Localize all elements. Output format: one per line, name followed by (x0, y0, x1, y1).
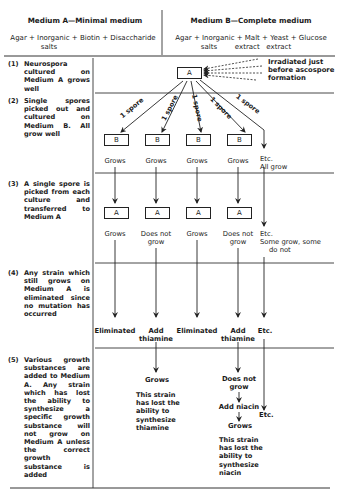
row3-result-line: grow (141, 238, 171, 246)
result-line: grow (222, 383, 256, 391)
row3-etc: Etc. Some grow, some do not (260, 230, 321, 254)
medium-a-box: A (145, 207, 170, 219)
row2-result: Grows (145, 157, 166, 165)
step-text: A single spore is picked from each cultu… (24, 180, 90, 221)
row4-result: Add thiamine (221, 327, 255, 343)
row3-result: Does not grow (223, 230, 253, 246)
row5-add-niacin: Add niacin (219, 403, 259, 411)
medium-a-formula-sub: salts (4, 43, 94, 51)
row2-etc-line: All grow (260, 163, 287, 171)
row3-etc-line: do not (260, 246, 321, 254)
medium-a-box: A (186, 207, 211, 219)
medium-b-box: B (186, 134, 211, 146)
irradiated-note-line: before ascospore (268, 66, 334, 74)
step-number: (2) (8, 97, 19, 105)
irradiated-note: Irradiated just before ascospore formati… (268, 58, 334, 82)
row3-result: Grows (186, 230, 207, 238)
row4-result-line: Add (139, 327, 173, 335)
step-text: Single spores picked out and cultured on… (24, 97, 90, 138)
step-text: Various growth substances are added to M… (24, 356, 90, 479)
row3-result-line: grow (223, 238, 253, 246)
row3-result-line: Does not (141, 230, 171, 238)
description-line: ability to (136, 407, 180, 415)
row4-result-line: thiamine (139, 335, 173, 343)
medium-b-box: B (104, 134, 129, 146)
row3-result-line: Grows (186, 230, 207, 238)
row3-result: Does not grow (141, 230, 171, 246)
medium-b-formula: Agar + Inorganic + Malt + Yeast + Glucos… (164, 34, 338, 42)
row5-thiamine-result: Grows (145, 376, 169, 384)
row4-result-line: Eliminated (95, 327, 136, 335)
step-number: (1) (8, 60, 19, 68)
description-line: This strain (136, 391, 180, 399)
row4-result: Eliminated (95, 327, 136, 335)
row3-etc-line: Etc. (260, 230, 321, 238)
description-line: thiamine (136, 424, 180, 432)
step-4: (4) Any strain which still grows on Medi… (8, 269, 90, 318)
row2-etc: Etc. All grow (260, 155, 287, 171)
medium-a-title: Medium A—Minimal medium (10, 16, 160, 25)
description-line: has lost the (219, 444, 263, 452)
result-line: Does not (222, 375, 256, 383)
row2-result: Grows (186, 157, 207, 165)
medium-a-formula: Agar + Inorganic + Biotin + Disaccharide (4, 34, 162, 42)
step-number: (3) (8, 180, 19, 188)
step-5: (5) Various growth substances are added … (8, 356, 90, 479)
step-3: (3) A single spore is picked from each c… (8, 180, 90, 221)
description-line: niacin (219, 469, 263, 477)
row4-result-line: Eliminated (177, 327, 218, 335)
medium-a-box: A (227, 207, 252, 219)
row3-result-line: Does not (223, 230, 253, 238)
row5-etc: Etc. (259, 411, 274, 419)
description-line: synthesize (136, 416, 180, 424)
description-line: has lost the (136, 399, 180, 407)
top-culture-box: A (177, 67, 202, 79)
step-text: Neurospora cultured on Medium A grows we… (24, 60, 90, 93)
step-number: (4) (8, 269, 19, 277)
row4-etc: Etc. (258, 327, 273, 335)
row5-niacin-description: This strain has lost the ability to synt… (219, 436, 263, 477)
description-line: synthesize (219, 461, 263, 469)
row3-result-line: Grows (104, 230, 125, 238)
row3-result: Grows (104, 230, 125, 238)
medium-b-formula-sub: salts extract extract (196, 43, 296, 51)
row2-result: Grows (227, 157, 248, 165)
step-2: (2) Single spores picked out and culture… (8, 97, 90, 138)
step-text: Any strain which still grows on Medium A… (24, 269, 90, 318)
description-line: This strain (219, 436, 263, 444)
row5-niacin-second-result: Grows (228, 422, 252, 430)
row2-etc-line: Etc. (260, 155, 287, 163)
irradiated-note-line: Irradiated just (268, 58, 334, 66)
row5-thiamine-description: This strain has lost the ability to synt… (136, 391, 180, 432)
row4-result: Add thiamine (139, 327, 173, 343)
row3-etc-line: Some grow, some (260, 238, 321, 246)
row5-niacin-first-result: Does not grow (222, 375, 256, 391)
row2-result: Grows (104, 157, 125, 165)
medium-a-box: A (104, 207, 129, 219)
row4-result-line: thiamine (221, 335, 255, 343)
step-number: (5) (8, 356, 19, 364)
row4-result-line: Add (221, 327, 255, 335)
medium-b-box: B (227, 134, 252, 146)
medium-b-title: Medium B—Complete medium (166, 16, 336, 25)
medium-b-box: B (145, 134, 170, 146)
description-line: ability to (219, 452, 263, 460)
step-1: (1) Neurospora cultured on Medium A grow… (8, 60, 90, 93)
irradiated-note-line: formation (268, 74, 334, 82)
row4-result: Eliminated (177, 327, 218, 335)
